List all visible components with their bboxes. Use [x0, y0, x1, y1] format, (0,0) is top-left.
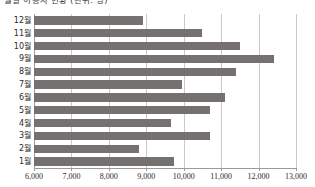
gridline-13000: [296, 14, 297, 168]
bar-12월: [34, 16, 143, 24]
y-axis-label-11월: 11월: [1, 29, 31, 38]
tick-10000: [184, 168, 185, 171]
y-axis-label-3월: 3월: [1, 131, 31, 140]
gridline-11000: [221, 14, 222, 168]
tick-8000: [109, 168, 110, 171]
y-axis-label-8월: 8월: [1, 67, 31, 76]
bar-6월: [34, 93, 225, 101]
bar-chart: 월별 이용자 현황 (단위: 명) 12월11월10월9월8월7월6월5월4월3…: [0, 0, 315, 187]
gridline-12000: [259, 14, 260, 168]
bar-2월: [34, 145, 139, 153]
y-axis-category-labels: 12월11월10월9월8월7월6월5월4월3월2월1월: [0, 14, 31, 168]
bar-8월: [34, 68, 236, 76]
y-axis-label-1월: 1월: [1, 157, 31, 166]
plot-area: [34, 14, 296, 168]
y-axis-label-10월: 10월: [1, 42, 31, 51]
x-axis-label: 13,000: [273, 172, 315, 181]
y-axis-label-12월: 12월: [1, 16, 31, 25]
bar-11월: [34, 29, 202, 37]
y-axis-label-7월: 7월: [1, 80, 31, 89]
chart-title: 월별 이용자 현황 (단위: 명): [4, 0, 108, 5]
bar-5월: [34, 106, 210, 114]
bar-4월: [34, 119, 171, 127]
bar-9월: [34, 55, 274, 63]
bar-10월: [34, 42, 240, 50]
bar-7월: [34, 80, 182, 88]
y-axis-label-4월: 4월: [1, 119, 31, 128]
tick-12000: [259, 168, 260, 171]
x-axis-line: [34, 168, 296, 169]
y-axis-label-6월: 6월: [1, 93, 31, 102]
y-axis-label-9월: 9월: [1, 54, 31, 63]
bar-1월: [34, 157, 174, 165]
tick-11000: [221, 168, 222, 171]
tick-13000: [296, 168, 297, 171]
tick-7000: [71, 168, 72, 171]
bar-3월: [34, 132, 210, 140]
y-axis-label-2월: 2월: [1, 144, 31, 153]
y-axis-label-5월: 5월: [1, 106, 31, 115]
tick-9000: [146, 168, 147, 171]
tick-6000: [34, 168, 35, 171]
